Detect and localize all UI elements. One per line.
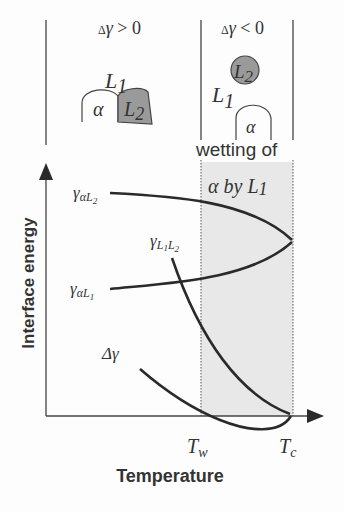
wetting-label-line2: α by L1 — [208, 175, 268, 199]
label-L1-right: L1 — [211, 82, 234, 112]
tick-Tw: Tw — [187, 435, 208, 460]
label-alpha-left: α — [93, 98, 104, 120]
label-alpha-right: α — [246, 117, 256, 137]
y-axis-label: Interface energy — [19, 217, 38, 349]
x-axis-arrow-icon — [307, 409, 324, 423]
condition-positive: Δγ > 0 — [98, 18, 141, 38]
label-delta-gamma: Δγ — [101, 344, 120, 363]
label-gamma-L1L2: γL1L2 — [150, 231, 180, 254]
tick-Tc: Tc — [279, 435, 297, 460]
y-axis-arrow-icon — [39, 163, 53, 180]
condition-negative: Δγ < 0 — [221, 18, 264, 38]
wetting-diagram: Δγ > 0 L1 α L2 Δγ < 0 L2 L1 α wetting of… — [0, 0, 344, 513]
x-axis-label: Temperature — [116, 466, 224, 486]
label-L1-left: L1 — [104, 68, 127, 97]
wetting-label-line1: wetting of — [195, 139, 278, 160]
wetting-region — [201, 162, 293, 416]
label-gamma-aL1: γαL1 — [70, 279, 94, 302]
label-gamma-aL2: γαL2 — [73, 183, 98, 206]
